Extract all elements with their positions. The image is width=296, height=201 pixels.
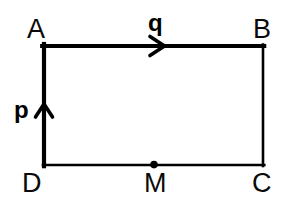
vertex-label-C: C: [252, 170, 272, 197]
vertex-label-A: A: [27, 16, 45, 43]
geometry-figure: A B C D M p q: [0, 0, 296, 201]
vertex-label-B: B: [253, 16, 271, 43]
point-label-M: M: [144, 170, 167, 197]
vector-label-p: p: [14, 98, 29, 122]
vertex-label-D: D: [22, 170, 42, 197]
vector-label-q: q: [148, 11, 163, 35]
